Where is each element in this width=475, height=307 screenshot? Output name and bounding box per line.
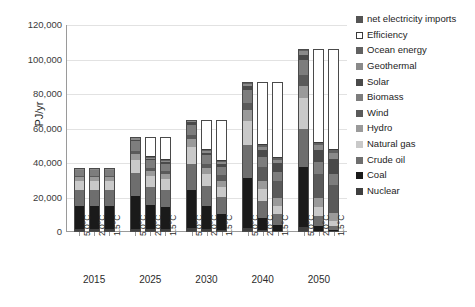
bar-segment [298, 55, 309, 60]
bar-segment [104, 190, 115, 206]
bar-segment [216, 197, 227, 214]
x-tick-label-scenario: 5.0°C [195, 215, 204, 236]
bar-segment [201, 120, 212, 150]
legend-item-label: Efficiency [367, 30, 407, 41]
stacked-bar [272, 82, 283, 232]
bar-segment [257, 181, 268, 189]
x-tickmark [263, 232, 264, 236]
x-tickmark [165, 232, 166, 236]
legend-item[interactable]: Ocean energy [356, 45, 474, 56]
legend-item[interactable]: Nuclear [356, 186, 474, 197]
x-tickmark [319, 232, 320, 236]
bar-segment [130, 154, 141, 160]
legend-item[interactable]: Wind [356, 108, 474, 119]
bar-segment [257, 157, 268, 167]
legend-item-label: Natural gas [367, 139, 416, 150]
bar-segment [201, 186, 212, 206]
gridline [66, 25, 347, 26]
bar-segment [130, 137, 141, 138]
bar-segment [216, 167, 227, 176]
legend-item-label: Biomass [367, 92, 403, 103]
bar-segment [201, 155, 212, 164]
bar-segment [160, 164, 171, 172]
legend-swatch-icon [356, 141, 363, 148]
legend-swatch-icon [356, 16, 363, 23]
bar-segment [328, 159, 339, 175]
bar-segment [74, 168, 85, 169]
bar-segment [104, 170, 115, 176]
bar-segment [160, 162, 171, 164]
bar-segment [216, 187, 227, 197]
bar-segment [242, 121, 253, 145]
legend-item-label: Solar [367, 77, 389, 88]
bar-segment [145, 171, 156, 176]
bar-segment [298, 75, 309, 86]
legend-swatch-icon [356, 125, 363, 132]
legend-swatch-icon [356, 47, 363, 54]
bar-segment [272, 198, 283, 206]
bar-segment [74, 170, 85, 176]
x-tickmark [150, 232, 151, 236]
bar-segment [328, 49, 339, 150]
bar-segment [160, 179, 171, 189]
bar-segment [257, 189, 268, 201]
x-tick-label-scenario: 1.5°C [337, 215, 346, 236]
bar-segment [74, 190, 85, 206]
bar-segment [130, 160, 141, 174]
x-tick-label-scenario: 1.5°C [113, 215, 122, 236]
legend-item[interactable]: Biomass [356, 92, 474, 103]
y-tick-label: 0 [6, 227, 62, 237]
legend-item[interactable]: Crude oil [356, 155, 474, 166]
stacked-bar [313, 49, 324, 232]
y-tick-label: 40,000 [6, 158, 62, 168]
bar-segment [298, 86, 309, 98]
bar-segment [313, 145, 324, 149]
bar-segment [145, 158, 156, 159]
bar-segment [242, 84, 253, 87]
bar-segment [242, 90, 253, 103]
stacked-bar [328, 49, 339, 232]
bar-segment [257, 150, 268, 157]
bar-segment [186, 122, 197, 124]
bar-segment [272, 82, 283, 158]
bar-segment [160, 174, 171, 179]
bar-segment [242, 86, 253, 89]
legend-item[interactable]: Hydro [356, 123, 474, 134]
bar-segment [216, 161, 227, 162]
bar-segment [186, 135, 197, 139]
legend-item[interactable]: Efficiency [356, 30, 474, 41]
bar-segment [74, 169, 85, 170]
bar-segment [242, 145, 253, 178]
bar-segment [201, 150, 212, 151]
bar-segment [313, 150, 324, 162]
x-axis-group-label: 2050 [291, 274, 347, 285]
legend-item-label: Nuclear [367, 186, 400, 197]
x-tick-label-scenario: 1.5°C [225, 215, 234, 236]
x-tick-label-scenario: 2.0°C [322, 215, 331, 236]
x-tick-label-scenario: 2.0°C [266, 215, 275, 236]
bar-segment [328, 150, 339, 153]
legend-item[interactable]: Solar [356, 77, 474, 88]
bar-segment [89, 170, 100, 176]
bar-segment [313, 162, 324, 174]
bar-segment [104, 176, 115, 177]
x-tickmark [135, 232, 136, 236]
legend-item[interactable]: net electricity imports [356, 14, 474, 25]
legend-item[interactable]: Geothermal [356, 61, 474, 72]
x-tickmark [207, 232, 208, 236]
bar-segment [257, 167, 268, 181]
x-tickmark [79, 232, 80, 236]
legend-item[interactable]: Coal [356, 170, 474, 181]
bar-segment [313, 49, 324, 143]
bar-segment [186, 120, 197, 121]
y-tick-label: 100,000 [6, 55, 62, 65]
bar-segment [257, 145, 268, 147]
bar-segment [145, 168, 156, 171]
bar-segment [257, 82, 268, 145]
x-tickmark [192, 232, 193, 236]
bar-segment [89, 181, 100, 190]
bar-segment [272, 158, 283, 160]
bar-segment [160, 137, 171, 160]
legend-item[interactable]: Natural gas [356, 139, 474, 150]
legend-swatch-icon [356, 79, 363, 86]
